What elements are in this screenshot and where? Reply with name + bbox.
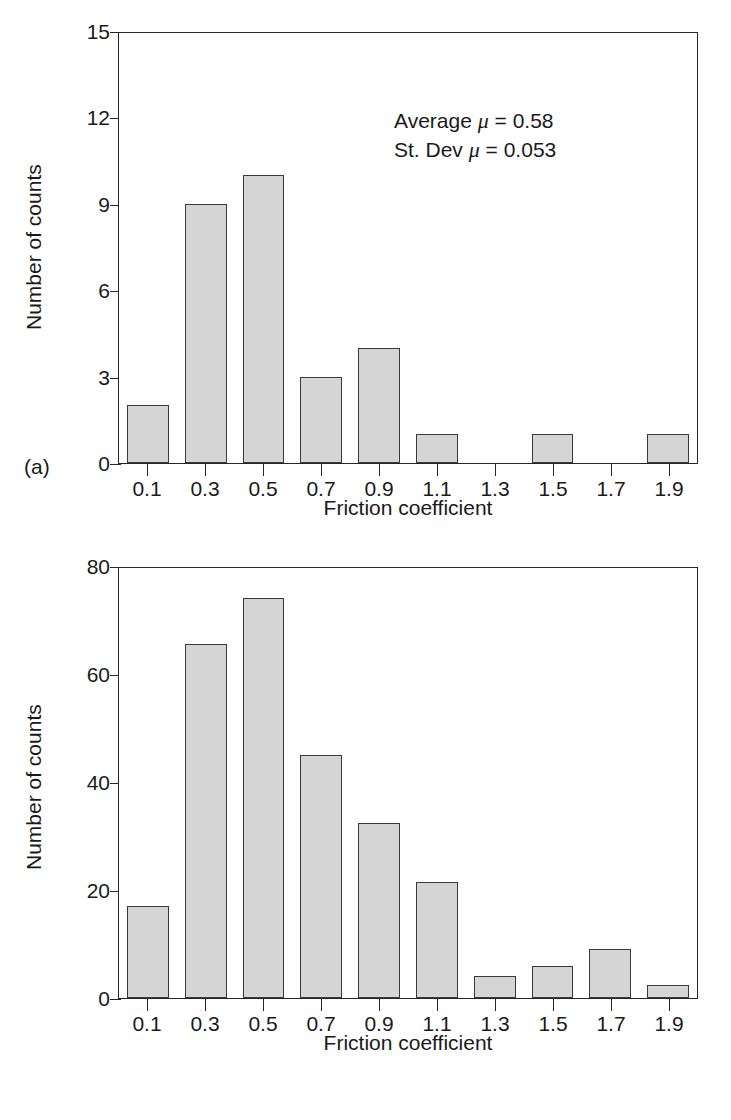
y-tick-label: 20	[62, 880, 110, 901]
bar	[243, 175, 285, 463]
average-value-a: = 0.58	[495, 109, 554, 132]
x-tick-mark	[147, 464, 148, 476]
y-tick-label: 40	[62, 772, 110, 793]
y-tick-label: 12	[62, 107, 110, 128]
bar	[474, 976, 516, 998]
bar	[358, 348, 400, 463]
bar	[532, 966, 574, 998]
bar	[185, 204, 227, 463]
average-label-a: Average	[394, 109, 472, 132]
bar	[185, 644, 227, 998]
bar	[416, 434, 458, 463]
bar	[127, 405, 169, 463]
bar	[300, 755, 342, 998]
y-axis-b: 020406080	[44, 567, 110, 999]
y-axis-a: 03691215	[44, 32, 110, 464]
y-tick-label: 3	[62, 367, 110, 388]
x-tick-mark	[321, 999, 322, 1011]
statistics-annotation-a: Average μ = 0.58 St. Dev μ = 0.053	[394, 106, 556, 164]
average-annotation-a: Average μ = 0.58	[394, 106, 556, 135]
bar	[532, 434, 574, 463]
x-tick-mark	[321, 464, 322, 476]
bar-series-b	[119, 568, 697, 998]
x-tick-mark	[437, 999, 438, 1011]
y-tick-label: 15	[62, 21, 110, 42]
x-tick-mark	[147, 999, 148, 1011]
x-tick-mark	[553, 464, 554, 476]
stdev-label-a: St. Dev	[394, 138, 463, 161]
y-tick-label: 0	[62, 988, 110, 1009]
x-tick-mark	[263, 464, 264, 476]
bar-series-a	[119, 33, 697, 463]
x-tick-mark	[205, 999, 206, 1011]
bar	[300, 377, 342, 463]
plot-area-b	[118, 567, 698, 999]
bar	[358, 823, 400, 999]
histogram-panel-b: Number of counts 020406080 0.10.30.50.70…	[0, 530, 731, 1120]
x-tick-mark	[495, 999, 496, 1011]
x-tick-mark	[669, 999, 670, 1011]
x-tick-mark	[263, 999, 264, 1011]
bar	[589, 949, 631, 998]
x-tick-mark	[611, 464, 612, 476]
x-tick-mark	[611, 999, 612, 1011]
histogram-panel-a: Number of counts 03691215 0.10.30.50.70.…	[0, 0, 731, 530]
x-tick-mark	[379, 999, 380, 1011]
bar	[416, 882, 458, 998]
x-axis-title-b: Friction coefficient	[118, 1031, 698, 1055]
x-tick-mark	[437, 464, 438, 476]
y-tick-label: 0	[62, 453, 110, 474]
y-axis-title-b: Number of counts	[22, 704, 46, 870]
x-tick-mark	[669, 464, 670, 476]
plot-area-a	[118, 32, 698, 464]
mu-symbol-a: μ	[478, 108, 489, 133]
panel-label-a: (a)	[24, 455, 50, 479]
x-tick-mark	[553, 999, 554, 1011]
y-tick-label: 60	[62, 664, 110, 685]
bar	[647, 985, 689, 999]
stdev-value-a: = 0.053	[486, 138, 557, 161]
y-tick-label: 6	[62, 280, 110, 301]
x-tick-mark	[495, 464, 496, 476]
x-tick-mark	[379, 464, 380, 476]
y-tick-label: 80	[62, 556, 110, 577]
x-axis-title-a: Friction coefficient	[118, 496, 698, 520]
bar	[647, 434, 689, 463]
x-tick-mark	[205, 464, 206, 476]
stdev-annotation-a: St. Dev μ = 0.053	[394, 135, 556, 164]
bar	[127, 906, 169, 998]
mu-symbol-stdev-a: μ	[469, 137, 480, 162]
y-tick-label: 9	[62, 194, 110, 215]
bar	[243, 598, 285, 998]
y-axis-title-a: Number of counts	[22, 164, 46, 330]
